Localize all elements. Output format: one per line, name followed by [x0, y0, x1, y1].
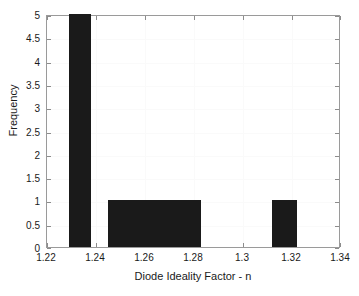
x-tick-label: 1.24 — [75, 252, 115, 263]
tick-mark-y-right — [335, 16, 339, 17]
tick-mark-x-bottom — [47, 243, 48, 247]
tick-mark-y-right — [335, 202, 339, 203]
tick-mark-y-right — [335, 248, 339, 249]
tick-mark-y-right — [335, 109, 339, 110]
tick-mark-y-left — [47, 202, 51, 203]
tick-mark-y-right — [335, 179, 339, 180]
y-tick-label: 1.5 — [2, 173, 40, 184]
y-tick-label: 5 — [2, 10, 40, 21]
tick-mark-x-top — [96, 16, 97, 20]
tick-mark-y-left — [47, 156, 51, 157]
histogram-bar — [69, 14, 91, 247]
tick-mark-x-bottom — [243, 243, 244, 247]
x-tick-label: 1.26 — [124, 252, 164, 263]
tick-mark-y-left — [47, 226, 51, 227]
x-tick-label: 1.22 — [26, 252, 66, 263]
y-tick-label: 4.5 — [2, 33, 40, 44]
x-tick-label: 1.34 — [320, 252, 359, 263]
tick-mark-y-right — [335, 39, 339, 40]
tick-mark-y-left — [47, 133, 51, 134]
tick-mark-y-left — [47, 39, 51, 40]
tick-mark-y-left — [47, 179, 51, 180]
histogram-bar — [108, 200, 201, 247]
tick-mark-x-bottom — [96, 243, 97, 247]
tick-mark-x-top — [145, 16, 146, 20]
y-tick-label: 1 — [2, 196, 40, 207]
x-axis-title: Diode Ideality Factor - n — [46, 270, 340, 283]
y-tick-label: 0.5 — [2, 220, 40, 231]
plot-area — [46, 15, 340, 248]
tick-mark-y-left — [47, 109, 51, 110]
tick-mark-x-top — [243, 16, 244, 20]
tick-mark-y-left — [47, 248, 51, 249]
tick-mark-y-right — [335, 156, 339, 157]
gridline-vertical — [243, 16, 244, 247]
tick-mark-y-right — [335, 63, 339, 64]
gridline-vertical — [96, 16, 97, 247]
x-tick-label: 1.32 — [271, 252, 311, 263]
tick-mark-x-bottom — [340, 243, 341, 247]
tick-mark-y-left — [47, 63, 51, 64]
tick-mark-y-right — [335, 86, 339, 87]
tick-mark-y-right — [335, 226, 339, 227]
x-tick-label: 1.3 — [222, 252, 262, 263]
tick-mark-x-top — [340, 16, 341, 20]
tick-mark-x-top — [292, 16, 293, 20]
y-axis-title: Frequency — [7, 61, 20, 161]
x-tick-label: 1.28 — [173, 252, 213, 263]
tick-mark-x-top — [47, 16, 48, 20]
tick-mark-y-left — [47, 86, 51, 87]
histogram-figure: 00.511.522.533.544.55 1.221.241.261.281.… — [0, 0, 359, 296]
tick-mark-x-top — [194, 16, 195, 20]
tick-mark-y-right — [335, 133, 339, 134]
histogram-bar — [272, 200, 297, 247]
